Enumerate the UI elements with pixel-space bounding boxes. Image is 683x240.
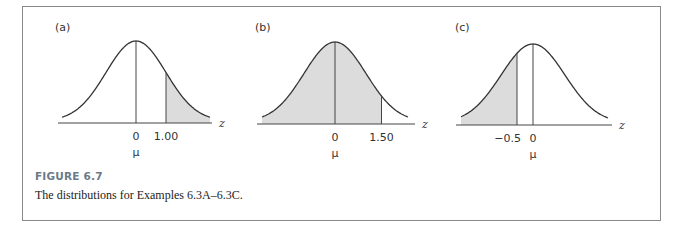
tick-label-a-0: 0 [133, 130, 140, 143]
tick-label-a-1: 1.00 [154, 130, 179, 143]
z-axis-label-c: z [618, 119, 625, 132]
mu-label-c: μ [530, 148, 537, 161]
tick-label-b-0: 0 [332, 131, 339, 144]
shaded-area-a [166, 72, 210, 123]
panel-label-a: (a) [55, 21, 70, 34]
tick-label-c-0: −0.5 [494, 132, 521, 145]
figure-title: FIGURE 6.7 [35, 170, 103, 182]
panel-b: (b) 0 1.50 μ z [255, 21, 428, 160]
panel-label-c: (c) [455, 21, 470, 34]
mu-label-b: μ [332, 147, 339, 160]
panel-c: (c) −0.5 0 μ z [455, 21, 625, 161]
z-axis-label-b: z [421, 118, 428, 131]
tick-label-b-1: 1.50 [369, 131, 394, 144]
z-axis-label-a: z [218, 117, 225, 130]
shaded-area-b [262, 42, 382, 124]
mu-label-a: μ [133, 146, 140, 159]
panel-label-b: (b) [255, 21, 271, 34]
figure-caption: The distributions for Examples 6.3A–6.3C… [35, 188, 243, 203]
tick-label-c-1: 0 [530, 132, 537, 145]
panel-a: (a) 0 1.00 μ z [55, 21, 225, 159]
